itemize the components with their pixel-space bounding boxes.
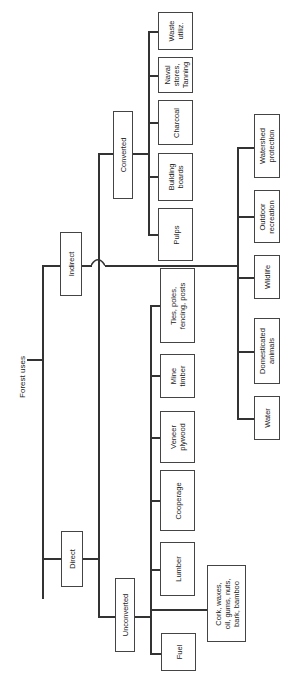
indirect-node: Indirect: [60, 232, 82, 296]
diagram-title: Forest uses: [18, 356, 27, 398]
branch-line: [237, 277, 255, 279]
unconverted-item-mine-timber: Mine timber: [160, 354, 195, 398]
branch-line: [150, 437, 160, 439]
converted-item-building-boards: Building boards: [158, 153, 193, 201]
unconverted-connector-right: [135, 616, 151, 618]
indirect-item-domesticated-animals: Domesticated animals: [254, 318, 280, 384]
unconverted-bus: [150, 305, 152, 653]
unconverted-item-cork-waxes: Cork, waxes, oil, gums, nuts, bark, bamb…: [207, 565, 246, 642]
branch-line: [150, 305, 160, 307]
converted-item-naval-stores: Naval stores, Tanning: [158, 57, 193, 93]
branch-line: [237, 418, 255, 420]
root-spine: [42, 265, 44, 599]
converted-connector-right: [133, 153, 149, 155]
title-connector: [27, 359, 42, 361]
indirect-bus: [237, 147, 239, 419]
branch-line: [237, 216, 255, 218]
unconverted-item-ties-poles: Ties, poles, fencing, posts: [160, 268, 195, 343]
direct-node: Direct: [61, 531, 83, 587]
converted-item-charcoal: Charcoal: [158, 100, 193, 145]
branch-line: [150, 500, 160, 502]
unconverted-connector-left: [98, 616, 115, 618]
branch-line: [237, 147, 255, 149]
unconverted-item-cooperage: Cooperage: [160, 470, 195, 531]
branch-line: [150, 569, 160, 571]
direct-connector-right: [83, 558, 99, 560]
converted-item-waste-utilization: Waste utiliz.: [158, 12, 193, 50]
indirect-item-water: Water: [254, 396, 280, 440]
unconverted-item-lumber: Lumber: [160, 542, 195, 596]
converted-item-pulps: Pulps: [158, 208, 193, 261]
branch-line: [150, 609, 208, 611]
indirect-item-watershed-protection: Watershed protection: [254, 114, 280, 178]
indirect-item-outdoor-recreation: Outdoor recreation: [254, 190, 280, 243]
unconverted-item-veneer-plywood: Veneer plywood: [160, 411, 195, 463]
indirect-connector-left: [42, 265, 60, 267]
direct-spine: [98, 153, 100, 617]
indirect-item-wildlife: Wildlife: [254, 255, 280, 299]
converted-node: Converted: [113, 111, 133, 199]
indirect-bus-connector: [105, 265, 238, 267]
direct-connector-left: [42, 558, 61, 560]
converted-bus: [148, 31, 150, 235]
unconverted-item-fuel: Fuel: [161, 633, 196, 671]
unconverted-node: Unconverted: [115, 578, 135, 652]
branch-line: [150, 375, 160, 377]
converted-connector-left: [98, 153, 113, 155]
branch-line: [237, 351, 255, 353]
